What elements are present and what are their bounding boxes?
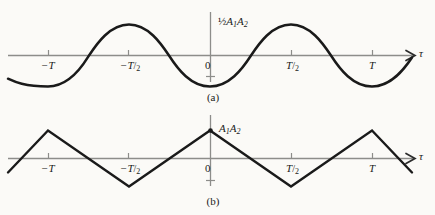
panel-b-tick-label-T-half-den: 2 — [295, 167, 299, 176]
panel-b-tick-label-minus-T-half-main: −T — [120, 162, 134, 174]
panel-b-tick-label-minus-T-half: −T/2 — [120, 163, 140, 174]
panel-a-tick-label-minus-T-text: −T — [41, 59, 55, 71]
figure-graphics — [0, 0, 435, 215]
panel-b-caption-text: (b) — [207, 195, 220, 207]
panel-b-amplitude-body1: A — [219, 122, 226, 134]
panel-b-origin-label: 0 — [205, 163, 211, 174]
panel-b-caption: (b) — [200, 196, 226, 207]
panel-b-peak-marker — [208, 128, 213, 133]
panel-a-axis-label-tau: τ — [419, 48, 423, 59]
panel-a-tick-label-minus-T-half: −T/2 — [120, 60, 140, 71]
panel-a-amplitude-body2: A — [237, 15, 244, 27]
panel-b-tick-label-T-half: T/2 — [286, 163, 299, 174]
panel-a-axis-label-tau-text: τ — [419, 47, 423, 59]
panel-b-axis-label-tau: τ — [419, 151, 423, 162]
panel-b-graphics — [8, 115, 415, 187]
panel-a-tick-label-T-half: T/2 — [286, 60, 299, 71]
panel-a-graphics — [8, 12, 415, 87]
panel-b-tick-label-minus-T-half-den: 2 — [136, 167, 140, 176]
panel-b-origin-label-text: 0 — [205, 162, 211, 174]
panel-b-axis-label-tau-text: τ — [419, 150, 423, 162]
panel-a-caption: (a) — [200, 92, 226, 103]
panel-b-tick-label-T-text: T — [369, 162, 375, 174]
figure-container: ½A1A2 −T −T/2 0 T/2 T τ (a) A1A2 −T −T/2… — [0, 0, 435, 215]
panel-b-amplitude-label: A1A2 — [219, 123, 240, 136]
panel-a-tick-label-minus-T-half-main: −T — [120, 59, 134, 71]
panel-b-tick-label-minus-T-text: −T — [41, 162, 55, 174]
panel-a-origin-label-text: 0 — [205, 59, 211, 71]
panel-a-origin-label: 0 — [205, 60, 211, 71]
panel-a-amplitude-half: ½ — [218, 15, 226, 27]
panel-a-tick-label-T: T — [369, 60, 375, 71]
panel-b-tick-label-T: T — [369, 163, 375, 174]
panel-a-tick-label-minus-T-half-den: 2 — [136, 64, 140, 73]
panel-a-amplitude-sub2: 2 — [244, 20, 248, 29]
panel-b-amplitude-sub2: 2 — [236, 127, 240, 136]
panel-a-tick-label-T-half-den: 2 — [295, 64, 299, 73]
panel-a-tick-label-T-text: T — [369, 59, 375, 71]
panel-a-amplitude-label: ½A1A2 — [218, 16, 248, 29]
panel-a-tick-label-minus-T: −T — [41, 60, 55, 71]
panel-b-tick-label-minus-T: −T — [41, 163, 55, 174]
panel-a-amplitude-body1: A — [226, 15, 233, 27]
panel-a-caption-text: (a) — [207, 91, 219, 103]
